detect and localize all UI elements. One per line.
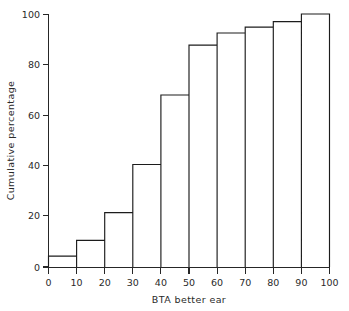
x-tick-label-60: 60 xyxy=(211,277,223,288)
x-tick-label-80: 80 xyxy=(267,277,279,288)
cumulative-percentage-chart: 100 80 60 40 20 0 0 10 20 30 40 xyxy=(0,0,349,311)
y-tick-label-100: 100 xyxy=(22,9,40,20)
y-tick-label-60: 60 xyxy=(28,110,40,121)
chart-canvas: 100 80 60 40 20 0 0 10 20 30 40 xyxy=(0,0,349,311)
y-axis-ticks xyxy=(43,15,49,268)
x-axis-title: BTA better ear xyxy=(152,294,226,305)
x-tick-label-70: 70 xyxy=(239,277,251,288)
x-axis-tick-labels: 0 10 20 30 40 50 60 70 80 90 100 xyxy=(45,277,338,288)
x-tick-label-100: 100 xyxy=(320,277,338,288)
x-tick-label-10: 10 xyxy=(71,277,83,288)
y-axis-title: Cumulative percentage xyxy=(5,81,16,201)
y-tick-label-20: 20 xyxy=(28,210,40,221)
x-tick-label-30: 30 xyxy=(127,277,139,288)
x-tick-label-0: 0 xyxy=(45,277,51,288)
y-tick-label-0: 0 xyxy=(34,262,40,273)
y-tick-label-80: 80 xyxy=(28,59,40,70)
x-axis-ticks xyxy=(49,268,330,275)
y-axis-tick-labels: 100 80 60 40 20 0 xyxy=(22,9,40,273)
y-tick-label-40: 40 xyxy=(28,160,40,171)
x-tick-label-50: 50 xyxy=(183,277,195,288)
x-tick-label-20: 20 xyxy=(99,277,111,288)
x-tick-label-90: 90 xyxy=(295,277,307,288)
cumulative-step-outline xyxy=(49,14,330,267)
x-tick-label-40: 40 xyxy=(155,277,167,288)
